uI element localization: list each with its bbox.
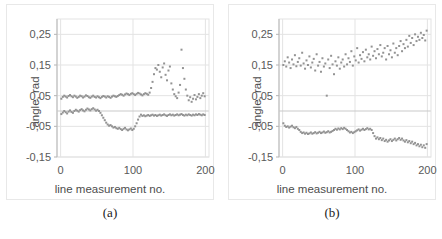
x-tick-label: 0 — [280, 164, 286, 176]
data-point — [334, 60, 336, 62]
data-point — [288, 62, 290, 64]
data-point — [372, 132, 374, 134]
data-point — [134, 125, 136, 127]
data-point — [179, 84, 181, 86]
data-point — [414, 142, 416, 144]
data-point — [371, 46, 373, 48]
data-point — [358, 62, 360, 64]
data-point — [349, 61, 351, 63]
data-point — [102, 117, 104, 119]
data-point — [199, 97, 201, 99]
data-point — [398, 45, 400, 47]
data-point — [381, 55, 383, 57]
data-point — [400, 40, 402, 42]
data-point — [376, 48, 378, 50]
y-tick-label: -0,15 — [26, 151, 51, 163]
y-tick-label: -0,05 — [248, 120, 273, 132]
chart-panel-a: angle, rad 0,250,150,05-0,05-0,150100200… — [6, 4, 214, 200]
data-point — [182, 67, 184, 69]
caption-b: (b) — [228, 205, 436, 221]
data-point — [176, 97, 178, 99]
data-point — [308, 55, 310, 57]
data-point — [404, 47, 406, 49]
data-point — [314, 70, 316, 72]
data-point — [292, 63, 294, 65]
data-point — [424, 39, 426, 41]
data-point — [411, 141, 413, 143]
data-point — [133, 128, 135, 130]
data-point — [374, 50, 376, 52]
y-tick-label: 0,05 — [30, 90, 51, 102]
data-point — [401, 50, 403, 52]
data-point — [282, 64, 284, 66]
data-point — [389, 138, 391, 140]
data-point — [398, 137, 400, 139]
data-point — [188, 99, 190, 101]
data-point — [172, 89, 174, 91]
data-point — [99, 112, 101, 114]
data-point — [319, 61, 321, 63]
data-point — [401, 138, 403, 140]
data-point — [201, 95, 203, 97]
data-point — [394, 138, 396, 140]
data-point — [139, 116, 141, 118]
data-point — [313, 58, 315, 60]
data-point — [204, 114, 206, 116]
data-point — [192, 98, 194, 100]
data-point — [137, 119, 139, 121]
data-point — [198, 93, 200, 95]
data-point — [418, 39, 420, 41]
data-point — [202, 92, 204, 94]
data-point — [416, 40, 418, 42]
data-point — [160, 76, 162, 78]
data-point — [166, 79, 168, 81]
data-point — [389, 49, 391, 51]
data-point — [423, 34, 425, 36]
data-point — [156, 69, 158, 71]
data-point — [385, 58, 387, 60]
y-tick-label: 0,15 — [30, 59, 51, 71]
data-point — [136, 122, 138, 124]
data-point — [408, 140, 410, 142]
data-point — [346, 63, 348, 65]
y-tick-label: -0,05 — [26, 120, 51, 132]
data-point — [153, 73, 155, 75]
data-point — [342, 58, 344, 60]
data-point — [374, 135, 376, 137]
data-point — [361, 58, 363, 60]
data-point — [340, 62, 342, 64]
data-point — [405, 39, 407, 41]
data-point — [426, 30, 428, 32]
data-point — [392, 43, 394, 45]
data-point — [290, 67, 292, 69]
data-point — [157, 64, 159, 66]
data-point — [310, 66, 312, 68]
x-tick-label: 200 — [196, 164, 214, 176]
data-point — [376, 136, 378, 138]
data-point — [332, 63, 334, 65]
data-point — [320, 71, 322, 73]
x-tick-label: 100 — [346, 164, 364, 176]
data-point — [347, 57, 349, 59]
y-tick-label: -0,15 — [248, 151, 273, 163]
data-point — [307, 64, 309, 66]
data-point — [426, 143, 428, 145]
data-point — [162, 66, 164, 68]
data-point — [382, 138, 384, 140]
x-axis-label-a: line measurement no. — [7, 183, 213, 195]
data-point — [359, 54, 361, 56]
data-point — [204, 95, 206, 97]
data-point — [173, 93, 175, 95]
x-tick-label: 200 — [418, 164, 436, 176]
scatter-plot-b: 0,250,150,05-0,05-0,150100200 — [229, 5, 437, 201]
x-tick-label: 0 — [58, 164, 64, 176]
data-point — [304, 68, 306, 70]
data-point — [350, 50, 352, 52]
data-point — [167, 70, 169, 72]
data-point — [384, 47, 386, 49]
data-point — [72, 112, 74, 114]
scatter-plot-a: 0,250,150,05-0,05-0,150100200 — [7, 5, 215, 201]
data-point — [408, 35, 410, 37]
data-point — [324, 62, 326, 64]
data-point — [295, 65, 297, 67]
